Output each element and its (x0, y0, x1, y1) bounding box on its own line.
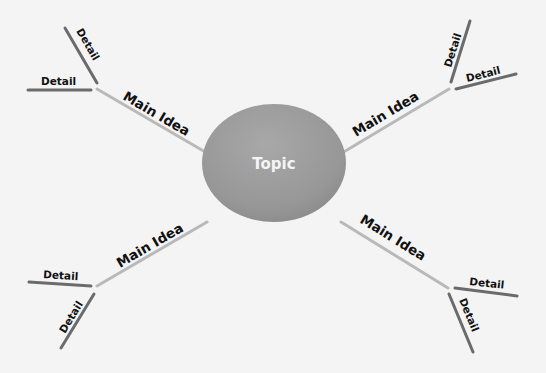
topic-node: Topic (202, 104, 346, 222)
detail-label: Detail (74, 26, 102, 62)
branch-top-left: Main Idea Detail Detail (28, 26, 207, 153)
branch-bottom-right: Main Idea Detail Detail (341, 211, 517, 352)
detail-label: Detail (41, 75, 76, 87)
main-idea-label: Main Idea (113, 219, 185, 270)
detail-label: Detail (43, 268, 79, 282)
detail-label: Detail (457, 296, 482, 333)
branch-bottom-left: Main Idea Detail Detail (29, 219, 207, 348)
branch-top-right: Main Idea Detail Detail (342, 21, 516, 153)
detail-label: Detail (469, 275, 505, 291)
main-idea-label: Main Idea (120, 88, 192, 139)
topic-label: Topic (252, 155, 295, 173)
concept-map: Main Idea Detail Detail Main Idea Detail… (0, 0, 546, 373)
detail-line (455, 288, 517, 296)
main-idea-line (97, 89, 207, 153)
detail-line (29, 282, 91, 286)
main-idea-line (97, 222, 207, 286)
